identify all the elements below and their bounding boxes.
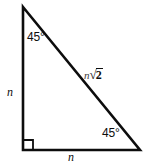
- side-label-horizontal-leg: n: [68, 151, 74, 163]
- radicand-value: 2: [96, 68, 103, 82]
- radical-expression: √ 2: [90, 67, 103, 81]
- triangle-drawing: [0, 0, 145, 165]
- side-label-vertical-leg: n: [7, 86, 13, 98]
- geometry-figure: 45° 45° n n n √ 2: [0, 0, 145, 165]
- triangle-outline: [23, 7, 140, 150]
- angle-label-bottom-right: 45°: [102, 127, 120, 139]
- right-angle-square: [23, 140, 33, 150]
- side-label-hypotenuse: n √ 2: [84, 67, 103, 81]
- angle-label-top: 45°: [27, 31, 45, 43]
